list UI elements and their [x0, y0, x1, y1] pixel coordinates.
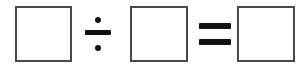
division-operator-symbol: ÷ [85, 17, 86, 18]
equation-canvas: □ ÷ □ = □ ÷ = [0, 0, 307, 73]
division-dot-top-icon [95, 17, 101, 23]
division-dot-bottom-icon [95, 45, 101, 51]
equals-bar-top-icon [199, 23, 231, 29]
equals-bar-bottom-icon [199, 39, 231, 45]
dividend-box[interactable] [15, 6, 72, 62]
dividend-box-value [17, 8, 18, 9]
division-bar-icon [85, 30, 111, 35]
quotient-box-value [239, 8, 240, 9]
division-operator: ÷ [85, 17, 111, 51]
equals-operator: = [199, 23, 231, 45]
divisor-box-value [132, 8, 133, 9]
equation-expression: □ ÷ □ = □ [0, 0, 1, 1]
quotient-box[interactable] [237, 6, 295, 62]
divisor-box[interactable] [130, 6, 188, 62]
